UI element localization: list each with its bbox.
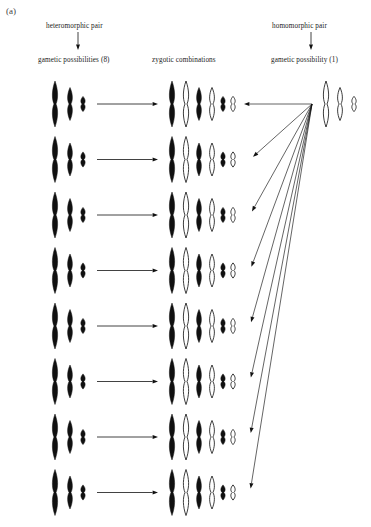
- gamete-2-chromosome-small: [81, 152, 85, 167]
- zygote-8-chromosome-medium-black: [197, 476, 202, 509]
- gamete-5-chromosome-small: [81, 318, 85, 333]
- zygote-6-chromosome-medium-black: [197, 365, 202, 398]
- gamete-2-chromosome-long: [52, 137, 57, 183]
- arrow-homomorphic-to-zygote-5: [251, 104, 312, 322]
- zygote-3-chromosome-medium-white: [210, 199, 215, 232]
- gamete-4-chromosome-small: [81, 263, 85, 278]
- zygote-1-chromosome-long-white: [183, 81, 188, 127]
- arrow-homomorphic-to-zygote-7: [250, 104, 312, 433]
- zygote-1-chromosome-small-white: [231, 96, 235, 111]
- arrow-homomorphic-to-zygote-4: [251, 104, 312, 267]
- zygote-4-chromosome-long-black: [169, 248, 174, 294]
- gamete-7-chromosome-small: [81, 429, 85, 444]
- zygote-6-chromosome-long-white: [183, 359, 188, 405]
- gamete-row-6: [52, 359, 85, 405]
- zygote-7-chromosome-long-black: [169, 414, 174, 460]
- gamete-row-2: [52, 137, 85, 183]
- gamete-3-chromosome-small: [81, 207, 85, 222]
- arrow-heteromorphic-label: [76, 32, 80, 50]
- header-heteromorphic-pair: heteromorphic pair: [46, 22, 103, 30]
- arrow-homomorphic-to-zygote-2: [253, 104, 312, 157]
- gamete-row-5: [52, 303, 85, 349]
- zygote-6-chromosome-small-black: [221, 374, 225, 389]
- zygote-3-chromosome-long-black: [169, 192, 174, 238]
- arrow-gamete-to-zygote-6: [97, 380, 158, 384]
- arrow-homomorphic-label: [309, 32, 313, 50]
- arrow-homomorphic-to-zygote-8: [250, 104, 312, 489]
- arrow-gamete-to-zygote-1: [97, 102, 158, 106]
- zygote-5-chromosome-long-white: [183, 303, 188, 349]
- zygote-6-chromosome-small-white: [231, 374, 235, 389]
- zygote-row-8: [169, 470, 235, 516]
- gamete-8-chromosome-long: [52, 470, 57, 516]
- arrow-homomorphic-to-zygote-3: [252, 104, 312, 212]
- zygote-6-chromosome-long-black: [169, 359, 174, 405]
- zygote-1-chromosome-small-black: [221, 96, 225, 111]
- panel-label: (a): [6, 6, 16, 16]
- zygote-5-chromosome-small-black: [221, 318, 225, 333]
- gamete-5-chromosome-medium: [68, 310, 73, 343]
- zygote-4-chromosome-medium-black: [197, 254, 202, 287]
- zygote-7-chromosome-small-black: [221, 429, 225, 444]
- arrow-gamete-to-zygote-7: [97, 435, 158, 439]
- gamete-8-chromosome-medium: [68, 476, 73, 509]
- gamete-4-chromosome-medium: [68, 254, 73, 287]
- zygote-5-chromosome-long-black: [169, 303, 174, 349]
- arrow-gamete-to-zygote-4: [97, 269, 158, 273]
- gamete-1-chromosome-medium: [68, 88, 73, 121]
- zygote-8-chromosome-small-white: [231, 485, 235, 500]
- zygote-7-chromosome-small-white: [231, 429, 235, 444]
- zygote-8-chromosome-small-black: [221, 485, 225, 500]
- zygote-5-chromosome-small-white: [231, 318, 235, 333]
- zygote-7-chromosome-medium-white: [210, 421, 215, 454]
- gamete-5-chromosome-long: [52, 303, 57, 349]
- diagram-artwork: [0, 0, 371, 527]
- zygote-row-7: [169, 414, 235, 460]
- zygote-row-5: [169, 303, 235, 349]
- zygote-row-1: [169, 81, 235, 127]
- zygote-row-2: [169, 137, 235, 183]
- zygote-2-chromosome-long-white: [183, 137, 188, 183]
- figure-panel: (a) heteromorphic pair gametic possibili…: [0, 0, 371, 527]
- zygote-3-chromosome-long-white: [183, 192, 188, 238]
- zygote-2-chromosome-small-black: [221, 152, 225, 167]
- header-homomorphic-pair: homomorphic pair: [272, 22, 327, 30]
- zygote-2-chromosome-small-white: [231, 152, 235, 167]
- gamete-7-chromosome-long: [52, 414, 57, 460]
- arrow-homomorphic-to-zygote-6: [250, 104, 312, 378]
- zygote-row-3: [169, 192, 235, 238]
- zygote-row-6: [169, 359, 235, 405]
- zygote-2-chromosome-long-black: [169, 137, 174, 183]
- header-gametic-possibilities-8: gametic possibilities (8): [38, 56, 110, 64]
- gamete-3-chromosome-medium: [68, 199, 73, 232]
- gamete-row-7: [52, 414, 85, 460]
- homomorphic-gamete: [323, 81, 356, 127]
- zygote-3-chromosome-medium-black: [197, 199, 202, 232]
- homomorphic-chromosome-long: [323, 81, 328, 127]
- arrow-gamete-to-zygote-5: [97, 324, 158, 328]
- homomorphic-chromosome-medium: [338, 88, 343, 121]
- zygote-4-chromosome-small-white: [231, 263, 235, 278]
- arrow-gamete-to-zygote-8: [97, 491, 158, 495]
- arrow-gamete-to-zygote-3: [97, 213, 158, 217]
- gamete-row-4: [52, 248, 85, 294]
- gamete-6-chromosome-medium: [68, 365, 73, 398]
- gamete-8-chromosome-small: [81, 485, 85, 500]
- zygote-8-chromosome-long-black: [169, 470, 174, 516]
- zygote-8-chromosome-medium-white: [210, 476, 215, 509]
- zygote-7-chromosome-medium-black: [197, 421, 202, 454]
- arrow-homomorphic-to-zygote-1: [244, 102, 312, 106]
- zygote-5-chromosome-medium-white: [210, 310, 215, 343]
- zygote-7-chromosome-long-white: [183, 414, 188, 460]
- zygote-row-4: [169, 248, 235, 294]
- zygote-4-chromosome-small-black: [221, 263, 225, 278]
- gamete-6-chromosome-long: [52, 359, 57, 405]
- gamete-6-chromosome-small: [81, 374, 85, 389]
- homomorphic-chromosome-small: [352, 96, 356, 111]
- gamete-1-chromosome-small: [81, 96, 85, 111]
- zygote-1-chromosome-medium-black: [197, 88, 202, 121]
- zygote-6-chromosome-medium-white: [210, 365, 215, 398]
- gamete-1-chromosome-long: [52, 81, 57, 127]
- zygote-5-chromosome-medium-black: [197, 310, 202, 343]
- zygote-4-chromosome-long-white: [183, 248, 188, 294]
